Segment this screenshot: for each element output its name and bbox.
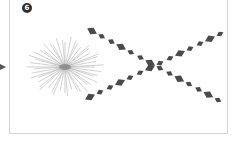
descending-chain [85, 25, 222, 104]
starburst-graphic [27, 37, 104, 96]
diagram-canvas [0, 0, 235, 142]
diamond-chains [83, 25, 224, 104]
ascending-chain [83, 30, 224, 103]
